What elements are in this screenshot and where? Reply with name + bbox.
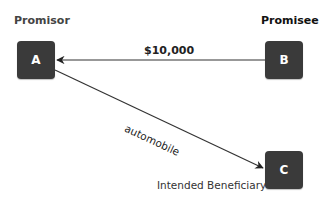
node-b-letter: B [279, 53, 288, 67]
node-c: C [265, 151, 303, 189]
intended-beneficiary-label: Intended Beneficiary [157, 179, 266, 191]
node-a-letter: A [31, 53, 40, 67]
node-b: B [265, 41, 303, 79]
edge-a-to-c-arrow [55, 70, 263, 168]
promisee-label: Promisee [261, 14, 319, 27]
edge-label-money: $10,000 [144, 44, 194, 57]
node-a: A [17, 41, 55, 79]
node-c-letter: C [280, 163, 289, 177]
promisor-label: Promisor [14, 14, 70, 27]
